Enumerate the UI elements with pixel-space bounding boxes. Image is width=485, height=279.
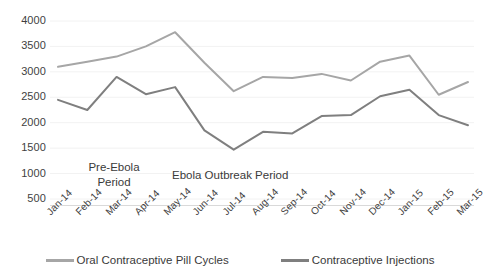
y-tick-label: 2500: [0, 91, 46, 102]
y-tick-label: 1000: [0, 168, 46, 179]
series-line-oral-pill-cycles: [58, 32, 468, 95]
y-axis: 4000350030002500200015001000500: [0, 0, 46, 279]
legend-label: Contraceptive Injections: [312, 254, 435, 267]
legend-label: Oral Contraceptive Pill Cycles: [77, 254, 229, 267]
y-tick-label: 4000: [0, 15, 46, 26]
y-tick-label: 500: [0, 193, 46, 204]
y-tick-label: 1500: [0, 142, 46, 153]
series-line-contraceptive-injections: [58, 77, 468, 150]
series-lines: [58, 32, 468, 149]
chart-title-remnant: [0, 0, 480, 8]
annotation-pre-ebola-period: Pre-Ebola Period: [62, 160, 166, 190]
legend-item[interactable]: Contraceptive Injections: [281, 254, 435, 267]
y-tick-label: 3000: [0, 66, 46, 77]
chart-legend: Oral Contraceptive Pill CyclesContracept…: [0, 250, 480, 270]
x-axis: Jan-14Feb-14Mar-14Apr-14May-14Jun-14Jul-…: [50, 206, 474, 252]
y-tick-label: 2000: [0, 117, 46, 128]
annotation-ebola-outbreak-period: Ebola Outbreak Period: [172, 168, 332, 183]
legend-item[interactable]: Oral Contraceptive Pill Cycles: [46, 254, 229, 267]
legend-line-swatch-icon: [46, 259, 74, 262]
y-tick-label: 3500: [0, 40, 46, 51]
legend-line-swatch-icon: [281, 259, 309, 262]
